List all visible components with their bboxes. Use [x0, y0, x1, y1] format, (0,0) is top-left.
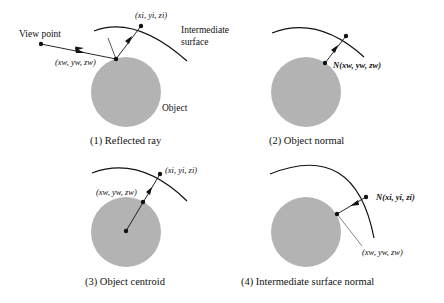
- intermediate-surface-arc: [272, 28, 364, 57]
- normal-label-text: N(xw, yw, zw): [332, 60, 381, 70]
- panel-caption: (4) Intermediate surface normal: [241, 276, 374, 288]
- panel-object-centroid: (xi, yi, zi) (xw, yw, zw) (3) Object cen…: [85, 165, 197, 288]
- surface-point-label: (xi, yi, zi): [165, 165, 197, 175]
- centroid-dot: [124, 229, 128, 233]
- surface-normal-arrow-icon: [350, 200, 359, 206]
- normal-label-text: N(xi, yi, zi): [375, 192, 415, 202]
- surface-label-line2: surface: [181, 37, 208, 47]
- hit-point-label: (xw, yw, zw): [362, 247, 403, 257]
- normal-label: N(xi, yi, zi): [375, 192, 415, 202]
- surface-normal-line: [108, 38, 116, 59]
- panel-reflected-ray: View point (xw, yw, zw) (xi, yi, zi) Int…: [19, 10, 229, 147]
- hit-point-dot: [323, 61, 327, 65]
- surface-point-dot: [364, 195, 368, 199]
- surface-point-dot: [344, 34, 348, 38]
- hit-point-dot: [114, 57, 118, 61]
- object-sphere: [271, 57, 341, 127]
- surface-point-dot: [158, 172, 162, 176]
- intermediate-surface-mapping-figure: View point (xw, yw, zw) (xi, yi, zi) Int…: [0, 0, 444, 303]
- hit-point-label: (xw, yw, zw): [55, 57, 96, 67]
- object-sphere: [271, 197, 341, 267]
- surface-label-line1: Intermediate: [181, 25, 229, 35]
- object-label: Object: [162, 103, 188, 113]
- panel-object-normal: N(xw, yw, zw) (2) Object normal: [269, 28, 381, 147]
- surface-point-label: (xi, yi, zi): [135, 10, 167, 20]
- view-point-dot: [39, 42, 43, 46]
- hit-point-dot: [141, 200, 145, 204]
- hit-point-label: (xw, yw, zw): [96, 187, 137, 197]
- normal-arrow-icon: [331, 45, 338, 53]
- surface-point-dot: [139, 24, 143, 28]
- centroid-arrow-icon: [146, 187, 152, 195]
- intermediate-surface-arc: [94, 27, 187, 61]
- panel-intermediate-surface-normal: N(xi, yi, zi) (xw, yw, zw) (4) Intermedi…: [241, 165, 415, 288]
- panel-caption: (2) Object normal: [269, 135, 344, 147]
- hit-point-dot: [335, 212, 339, 216]
- normal-label: N(xw, yw, zw): [332, 60, 381, 70]
- panel-caption: (1) Reflected ray: [90, 135, 162, 147]
- panel-caption: (3) Object centroid: [85, 276, 166, 288]
- object-sphere: [91, 57, 161, 127]
- view-point-label: View point: [19, 29, 61, 39]
